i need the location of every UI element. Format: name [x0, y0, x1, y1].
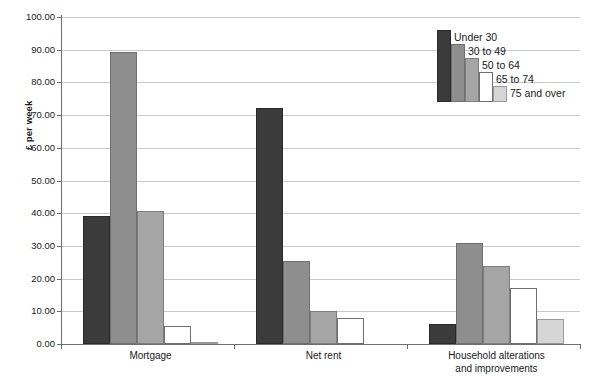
y-axis-tick-label: 40.00 [0, 208, 55, 218]
bar [429, 324, 456, 344]
x-axis-tick-mark [234, 344, 235, 349]
x-axis-tick-mark [407, 344, 408, 349]
x-axis-category-label: Household alterations and improvements [397, 350, 591, 375]
legend-swatch [493, 86, 507, 102]
y-axis-tick-mark [57, 311, 62, 312]
bar [191, 342, 218, 344]
bar-group [256, 17, 391, 344]
legend-label: 75 and over [510, 88, 565, 99]
y-axis-tick-mark [57, 50, 62, 51]
y-axis-tick-label: 50.00 [0, 176, 55, 186]
legend-swatch [451, 44, 465, 102]
gridline [61, 344, 580, 345]
bar [256, 108, 283, 344]
bar [137, 211, 164, 344]
legend-label: 65 to 74 [496, 74, 534, 85]
bar-chart: £ per week 100.0090.0080.0070.0060.0050.… [0, 0, 591, 377]
x-axis-category-label: Mortgage [51, 350, 251, 363]
legend-swatch [437, 30, 451, 102]
legend-label: 50 to 64 [482, 60, 520, 71]
bar [483, 266, 510, 344]
y-axis-tick-label: 80.00 [0, 78, 55, 88]
chart-legend: Under 3030 to 4950 to 6465 to 7475 and o… [437, 30, 587, 102]
bar [164, 326, 191, 344]
y-axis-tick-mark [57, 82, 62, 83]
y-axis-tick-mark [57, 17, 62, 18]
y-axis-tick-label: 30.00 [0, 241, 55, 251]
x-axis-category-label: Net rent [224, 350, 424, 363]
legend-swatch [465, 58, 479, 102]
y-axis-tick-mark [57, 279, 62, 280]
bar [283, 261, 310, 344]
x-axis-tick-mark [61, 344, 62, 349]
y-axis-tick-label: 0.00 [0, 339, 55, 349]
bar-group [83, 17, 218, 344]
bar [456, 243, 483, 344]
bar-group-bars [83, 17, 218, 344]
bar-group-bars [256, 17, 391, 344]
bar [537, 319, 564, 344]
legend-label: 30 to 49 [468, 46, 506, 57]
y-axis-tick-label: 20.00 [0, 274, 55, 284]
bar [510, 288, 537, 344]
x-axis-tick-mark [580, 344, 581, 349]
bar [83, 216, 110, 344]
y-axis-tick-label: 60.00 [0, 143, 55, 153]
y-axis-tick-labels: 100.0090.0080.0070.0060.0050.0040.0030.0… [0, 17, 55, 344]
y-axis-tick-mark [57, 213, 62, 214]
bar [310, 311, 337, 344]
y-axis-tick-mark [57, 181, 62, 182]
legend-swatch [479, 72, 493, 102]
y-axis-tick-mark [57, 148, 62, 149]
y-axis-tick-label: 90.00 [0, 45, 55, 55]
y-axis-tick-label: 100.00 [0, 12, 55, 22]
bar [110, 52, 137, 344]
legend-label: Under 30 [454, 32, 497, 43]
y-axis-tick-mark [57, 246, 62, 247]
y-axis-tick-label: 70.00 [0, 110, 55, 120]
y-axis-tick-label: 10.00 [0, 307, 55, 317]
y-axis-tick-mark [57, 115, 62, 116]
bar [337, 318, 364, 344]
